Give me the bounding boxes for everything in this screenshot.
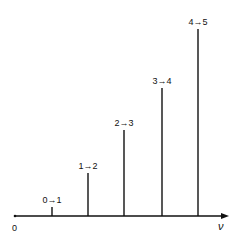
- transition-lines: 0→11→22→33→44→5: [42, 17, 207, 216]
- spectrum-diagram: 0→11→22→33→44→5 0 ν: [0, 0, 244, 246]
- transition-label: 4→5: [188, 17, 207, 27]
- origin-dot: [14, 215, 17, 218]
- origin-label: 0: [12, 223, 17, 233]
- nu-axis-label: ν: [218, 220, 224, 232]
- transition-label: 1→2: [78, 161, 97, 171]
- transition-label: 0→1: [42, 195, 61, 205]
- transition-label: 2→3: [114, 118, 133, 128]
- arrow-icon: [221, 213, 229, 219]
- transition-label: 3→4: [152, 76, 171, 86]
- frequency-axis: [14, 213, 229, 219]
